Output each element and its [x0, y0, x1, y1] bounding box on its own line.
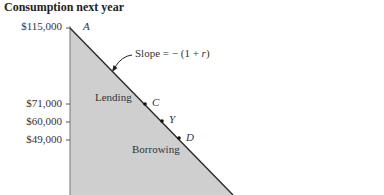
region-label-borrowing: Borrowing	[132, 143, 180, 155]
tick-label-115000: $115,000	[0, 20, 62, 32]
point-label-y: Y	[169, 113, 175, 125]
point-d	[177, 136, 181, 140]
point-c	[143, 102, 147, 106]
slope-annotation: Slope = − (1 + r)	[135, 47, 210, 59]
point-label-c: C	[152, 96, 159, 108]
slope-arrowhead-icon	[112, 65, 118, 72]
region-label-lending: Lending	[95, 91, 132, 103]
tick-label-60000: $60,000	[0, 115, 62, 127]
slope-prefix: Slope = − (1 +	[135, 47, 202, 59]
point-y	[160, 119, 164, 123]
slope-suffix: )	[206, 47, 210, 59]
slope-arrow	[115, 55, 132, 67]
point-label-a: A	[83, 20, 90, 32]
point-label-d: D	[186, 131, 194, 143]
chart-title: Consumption next year	[4, 0, 124, 15]
tick-label-71000: $71,000	[0, 97, 62, 109]
budget-constraint-chart: Consumption next year $115,000 $71,000 $…	[0, 0, 384, 195]
tick-label-49000: $49,000	[0, 133, 62, 145]
